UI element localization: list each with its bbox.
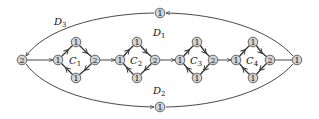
- svg-text:1: 1: [73, 38, 78, 47]
- edge-d2-left: [26, 64, 154, 107]
- path-label-d1: D1: [152, 27, 166, 40]
- gadget-c4: 1 1 2 1 C4: [231, 37, 275, 83]
- edge-d3: [26, 13, 154, 56]
- edge-d1-top: [166, 13, 293, 56]
- svg-text:1: 1: [194, 74, 199, 83]
- edge-d2-right: [166, 64, 293, 107]
- svg-text:2: 2: [267, 56, 272, 65]
- svg-text:1: 1: [250, 38, 255, 47]
- svg-text:1: 1: [233, 56, 238, 65]
- svg-text:2: 2: [92, 56, 97, 65]
- path-label-d2: D2: [152, 85, 166, 98]
- svg-text:1: 1: [134, 38, 139, 47]
- svg-text:1: 1: [73, 74, 78, 83]
- gadget-c3: 1 1 2 1 C3: [175, 37, 218, 83]
- gadget-label-c3: C3: [190, 55, 202, 68]
- gadget-c2: 1 1 2 1 C2: [115, 37, 160, 83]
- svg-text:1: 1: [55, 56, 60, 65]
- gadget-label-c4: C4: [246, 55, 259, 68]
- svg-text:1: 1: [157, 103, 162, 112]
- svg-text:1: 1: [250, 74, 255, 83]
- svg-text:1: 1: [177, 56, 182, 65]
- svg-text:2: 2: [19, 56, 24, 65]
- svg-text:1: 1: [294, 56, 299, 65]
- gadget-label-c1: C1: [69, 55, 81, 68]
- svg-text:2: 2: [210, 56, 215, 65]
- gadget-c1: 1 1 2 1 C1: [53, 37, 100, 83]
- gadget-label-c2: C2: [130, 55, 142, 68]
- node-source: 2: [17, 55, 27, 65]
- node-top-mid: 1: [155, 8, 165, 18]
- node-bottom-mid: 1: [155, 102, 165, 112]
- svg-text:1: 1: [117, 56, 122, 65]
- svg-text:1: 1: [157, 9, 162, 18]
- diagram-canvas: 2 1 1 1 1 1 2 1 C1 1 1 2 1 C2 1 1 2 1 C3…: [0, 0, 319, 119]
- svg-text:1: 1: [194, 38, 199, 47]
- svg-text:2: 2: [152, 56, 157, 65]
- svg-text:1: 1: [134, 74, 139, 83]
- path-label-d3: D3: [53, 16, 67, 29]
- node-sink: 1: [292, 55, 302, 65]
